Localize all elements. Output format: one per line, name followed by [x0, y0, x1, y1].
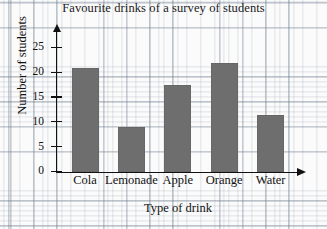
y-axis-line — [56, 30, 57, 172]
x-axis-title: Type of drink — [56, 201, 300, 216]
bar-orange — [211, 63, 238, 172]
y-axis-tick-label: 15 — [33, 91, 45, 103]
y-axis-tick-label: 25 — [33, 42, 45, 54]
y-axis-tick-label: 20 — [33, 66, 45, 78]
y-axis-tick: 10 — [51, 121, 62, 122]
chart-figure: Favourite drinks of a survey of students… — [0, 0, 327, 229]
y-axis-tick-label: 5 — [38, 141, 44, 153]
x-axis-label-water: Water — [241, 174, 301, 187]
x-axis-tick-labels: ColaLemonadeAppleOrangeWater — [56, 174, 308, 190]
y-axis-tick-label: 10 — [33, 116, 45, 128]
bar-water — [257, 115, 284, 172]
bar-cola — [72, 68, 99, 172]
chart-title: Favourite drinks of a survey of students — [0, 1, 327, 16]
y-axis-tick: 5 — [51, 146, 62, 147]
plot-area: 0510152025 — [56, 40, 304, 172]
y-axis-title: Number of students — [15, 3, 30, 128]
y-axis-tick: 0 — [51, 171, 62, 172]
y-axis-tick: 25 — [51, 47, 62, 48]
bar-apple — [164, 85, 191, 172]
y-axis-tick: 15 — [51, 96, 62, 97]
y-axis-tick: 20 — [51, 72, 62, 73]
y-axis-tick-label: 0 — [38, 166, 44, 178]
arrow-up-icon — [53, 24, 61, 32]
bar-lemonade — [118, 127, 145, 172]
